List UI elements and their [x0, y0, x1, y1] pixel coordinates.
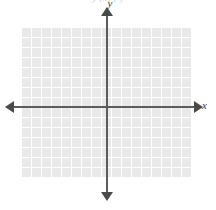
x-axis-line	[12, 106, 196, 108]
x-axis-left-arrow-icon	[5, 101, 14, 113]
x-axis-label: x	[202, 100, 214, 111]
coordinate-plane-figure: y (x) ( ) y x	[0, 0, 216, 210]
y-axis-line	[106, 14, 108, 196]
y-axis-down-arrow-icon	[101, 192, 113, 201]
y-axis-label: y	[103, 0, 117, 9]
